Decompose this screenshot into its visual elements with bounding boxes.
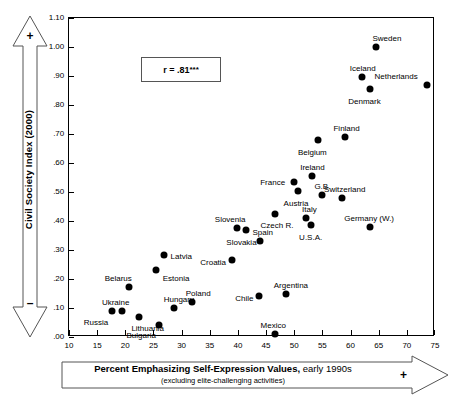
x-axis-plus-sign: + [400,368,407,382]
data-point [367,223,374,230]
x-tick [69,330,70,335]
x-tick-label: 55 [310,342,334,350]
data-point-label: Argentina [274,282,308,290]
y-tick [69,18,74,19]
data-point-label: Germany (W.) [344,215,394,223]
data-point [373,44,380,51]
x-tick-label: 20 [113,342,137,350]
x-axis-arrow [60,354,450,396]
data-point [358,74,365,81]
data-point-label: Finland [333,125,359,133]
x-tick-label: 50 [282,342,306,350]
data-point [256,292,263,299]
y-tick [69,47,74,48]
x-tick-label: 35 [198,342,222,350]
data-point-label: Latvia [171,253,192,261]
data-point-label: Iceland [350,65,376,73]
data-point-label: Poland [186,290,211,298]
y-tick [69,76,74,77]
data-point-label: Slovenia [215,216,246,224]
x-tick-label: 30 [170,342,194,350]
x-tick [434,330,435,335]
y-tick-label: .60 [24,159,64,167]
x-tick-label: 40 [226,342,250,350]
data-point-label: Chile [235,295,253,303]
data-point [423,81,430,88]
data-point [125,284,132,291]
data-point [243,226,250,233]
y-tick [69,134,74,135]
y-tick-label: .50 [24,188,64,196]
data-point [229,257,236,264]
data-point-label: Czech R. [261,222,294,230]
data-point [308,222,315,229]
y-tick-label: .40 [24,217,64,225]
y-axis-plus-sign: + [10,30,50,42]
x-tick-label: 15 [85,342,109,350]
data-point [118,307,125,314]
data-point [155,321,162,328]
y-tick [69,163,74,164]
y-tick-label: .20 [24,275,64,283]
data-point [291,178,298,185]
x-tick [97,330,98,335]
data-point-label: Mexico [261,322,286,330]
data-point [367,86,374,93]
x-tick [238,330,239,335]
y-axis-title: Civil Society Index (2000) [23,70,34,270]
x-tick-label: 25 [141,342,165,350]
data-point-label: Italy [302,206,317,214]
data-point-label: Estonia [163,275,190,283]
data-point [271,331,278,338]
scatter-plot-figure: + – Civil Society Index (2000) Percent E… [0,0,457,397]
data-point-label: U.S.A. [299,234,322,242]
y-tick-label: .80 [24,101,64,109]
y-tick [69,192,74,193]
y-tick-label: .10 [24,304,64,312]
y-tick [69,105,74,106]
y-tick-label: 1.00 [24,43,64,51]
y-tick [69,308,74,309]
y-tick-label: .30 [24,246,64,254]
x-tick [266,330,267,335]
plot-area: .00.10.20.30.40.50.60.70.80.901.001.10 1… [68,17,434,336]
x-tick [407,330,408,335]
data-point [108,307,115,314]
data-point-label: Russia [84,319,108,327]
data-point-label: Switzerland [324,186,365,194]
x-tick-label: 45 [254,342,278,350]
data-point-label: Bulgaria [127,332,156,340]
correlation-value: r = .81 [163,65,189,75]
x-tick-label: 70 [395,342,419,350]
data-point-label: Slovakia [226,239,256,247]
data-point-label: Croatia [200,259,226,267]
x-axis-title: Percent Emphasizing Self-Expression Valu… [68,363,378,374]
data-point [170,304,177,311]
x-axis-subtitle: (excluding elite-challenging activities) [68,376,378,385]
y-tick [69,250,74,251]
data-point-label: Spain [252,229,272,237]
data-point-label: Netherlands [375,73,418,81]
x-axis-title-bold: Percent Emphasizing Self-Expression Valu… [94,363,300,374]
data-point-label: Belarus [105,275,132,283]
x-tick [351,330,352,335]
x-tick-label: 10 [57,342,81,350]
x-tick-label: 75 [423,342,447,350]
data-point [309,173,316,180]
data-point-label: Denmark [348,98,380,106]
data-point-label: France [260,179,285,187]
data-point [303,215,310,222]
y-tick [69,221,74,222]
data-point [294,187,301,194]
y-tick-label: 1.10 [24,14,64,22]
y-tick-label: .00 [24,333,64,341]
x-tick [182,330,183,335]
data-point [342,133,349,140]
data-point [257,238,264,245]
data-point-label: Ireland [300,164,324,172]
x-tick [379,330,380,335]
x-axis-title-regular: early 1990s [300,363,352,374]
data-point-label: Sweden [372,35,401,43]
x-tick-label: 65 [367,342,391,350]
x-tick-label: 60 [339,342,363,350]
